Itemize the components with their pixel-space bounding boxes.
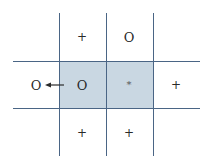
arrow-left-icon <box>44 81 66 89</box>
grid-line-horizontal-2 <box>13 108 200 109</box>
grid-line-horizontal-1 <box>13 61 200 62</box>
cell-mid-left-shaded-symbol: O <box>77 79 88 92</box>
grid-line-vertical-2 <box>106 13 107 156</box>
cell-top-mid-symbol: O <box>124 31 135 44</box>
cell-mid-right-symbol: + <box>171 79 181 91</box>
cell-bottom-mid-symbol: + <box>124 127 134 139</box>
cell-top-left-symbol: + <box>77 31 87 43</box>
cell-mid-center-shaded-symbol: * <box>127 80 132 90</box>
cell-bottom-left-symbol: + <box>77 127 87 139</box>
cell-mid-far-left-symbol: O <box>31 79 42 92</box>
grid-line-vertical-3 <box>153 13 154 156</box>
